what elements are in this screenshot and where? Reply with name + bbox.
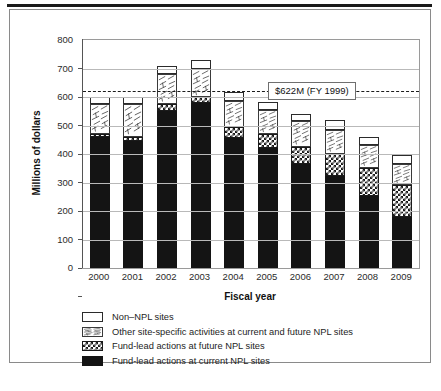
- gridline-100: [83, 240, 419, 241]
- bar-segment-2005-1: [258, 148, 278, 268]
- y-tick-400: [78, 182, 82, 183]
- x-axis-title: Fiscal year: [224, 291, 276, 302]
- legend-item-2[interactable]: Other site-specific activities at curren…: [82, 325, 427, 340]
- bar-segment-2007-1: [325, 176, 345, 268]
- legend-swatch-white: [82, 312, 103, 322]
- bar-segment-2008-1: [359, 196, 379, 268]
- bar-segment-2007-3: [325, 130, 345, 154]
- y-tick-label-100: 100: [13, 233, 73, 244]
- bar-segment-2003-1: [191, 103, 211, 268]
- y-tick-700: [78, 97, 82, 98]
- bar-2002: [157, 66, 177, 268]
- bar-2004: [224, 92, 244, 268]
- bar-segment-2000-4: [90, 97, 110, 104]
- y-tick-300: [78, 211, 82, 212]
- bar-segment-2001-1: [123, 141, 143, 268]
- x-tick-label-2003: 2003: [189, 271, 210, 282]
- bar-segment-2004-3: [224, 101, 244, 127]
- y-tick-500: [78, 154, 82, 155]
- bar-2005: [258, 102, 278, 268]
- figure-top-rule: [7, 4, 432, 7]
- y-tick-label-600: 600: [13, 91, 73, 102]
- chart-legend: Non–NPL sites Other site-specific activi…: [82, 310, 427, 368]
- legend-swatch-hatch: [82, 327, 103, 337]
- legend-item-4[interactable]: Fund-lead actions at current NPL sites: [82, 354, 427, 369]
- gridline-600: [83, 97, 419, 98]
- y-tick-label-0: 0: [13, 262, 73, 273]
- x-tick-label-2001: 2001: [122, 271, 143, 282]
- y-tick-label-800: 800: [13, 34, 73, 45]
- bar-segment-2002-2: [157, 104, 177, 111]
- bar-segment-2001-2: [123, 137, 143, 141]
- legend-label: Fund-lead actions at current NPL sites: [112, 356, 270, 366]
- bar-segment-2009-4: [392, 155, 412, 164]
- y-axis-line: [82, 39, 83, 268]
- gridline-400: [83, 154, 419, 155]
- bar-segment-2001-3: [123, 104, 143, 137]
- legend-item-3[interactable]: Fund-lead actions at future NPL sites: [82, 339, 427, 354]
- bar-segment-2003-4: [191, 60, 211, 69]
- legend-swatch-checkerboard: [82, 341, 103, 351]
- y-tick-label-400: 400: [13, 148, 73, 159]
- x-tick-label-2002: 2002: [155, 271, 176, 282]
- bar-segment-2000-3: [90, 104, 110, 134]
- bar-segment-2005-2: [258, 134, 278, 148]
- y-tick-label-700: 700: [13, 62, 73, 73]
- legend-label: Non–NPL sites: [112, 312, 174, 322]
- y-tick-200: [78, 239, 82, 240]
- bar-segment-2005-3: [258, 110, 278, 134]
- legend-swatch-solid-black: [82, 356, 103, 366]
- gridline-300: [83, 183, 419, 184]
- x-tick-label-2005: 2005: [256, 271, 277, 282]
- bar-segment-2006-1: [291, 164, 311, 268]
- x-tick-label-2000: 2000: [88, 271, 109, 282]
- reference-line-622m: [83, 91, 419, 92]
- bar-segment-2006-2: [291, 147, 311, 164]
- legend-label: Other site-specific activities at curren…: [112, 327, 353, 337]
- x-axis-tick-labels: 2000200120022003200420052006200720082009: [82, 271, 418, 285]
- x-tick-label-2009: 2009: [391, 271, 412, 282]
- plot-area: $622M (FY 1999): [82, 39, 420, 269]
- x-tick-label-2008: 2008: [357, 271, 378, 282]
- bar-segment-2000-2: [90, 134, 110, 137]
- bar-segment-2004-2: [224, 127, 244, 138]
- bar-2007: [325, 120, 345, 268]
- bar-segment-2007-2: [325, 154, 345, 176]
- reference-line-callout: $622M (FY 1999): [268, 82, 356, 100]
- bar-2006: [291, 114, 311, 268]
- y-tick-label-200: 200: [13, 205, 73, 216]
- legend-item-1[interactable]: Non–NPL sites: [82, 310, 427, 325]
- bar-segment-2008-3: [359, 145, 379, 168]
- y-axis-labels: Millions of dollars 01002003004005006007…: [10, 10, 82, 270]
- y-tick-label-300: 300: [13, 176, 73, 187]
- y-tick-0: [78, 296, 82, 297]
- bar-segment-2005-4: [258, 102, 278, 110]
- figure-frame: Millions of dollars 01002003004005006007…: [9, 9, 431, 363]
- bar-segment-2004-1: [224, 138, 244, 268]
- bar-segment-2002-4: [157, 66, 177, 75]
- y-tick-800: [78, 68, 82, 69]
- figure-page: Millions of dollars 01002003004005006007…: [0, 0, 441, 391]
- bar-segment-2008-4: [359, 137, 379, 146]
- legend-label: Fund-lead actions at future NPL sites: [112, 341, 265, 351]
- bar-segment-2000-1: [90, 137, 110, 268]
- bar-segment-2003-3: [191, 69, 211, 98]
- x-tick-label-2006: 2006: [290, 271, 311, 282]
- y-tick-100: [78, 268, 82, 269]
- gridline-500: [83, 126, 419, 127]
- bar-segment-2009-2: [392, 185, 412, 216]
- bar-segment-2002-3: [157, 74, 177, 104]
- bar-segment-2002-1: [157, 111, 177, 268]
- gridline-200: [83, 211, 419, 212]
- bar-2008: [359, 137, 379, 268]
- bar-segment-2009-1: [392, 217, 412, 268]
- gridline-700: [83, 69, 419, 70]
- x-tick-label-2007: 2007: [323, 271, 344, 282]
- bar-segment-2001-4: [123, 97, 143, 104]
- bar-segment-2006-4: [291, 114, 311, 122]
- y-tick-label-500: 500: [13, 119, 73, 130]
- y-tick-600: [78, 125, 82, 126]
- x-tick-label-2004: 2004: [223, 271, 244, 282]
